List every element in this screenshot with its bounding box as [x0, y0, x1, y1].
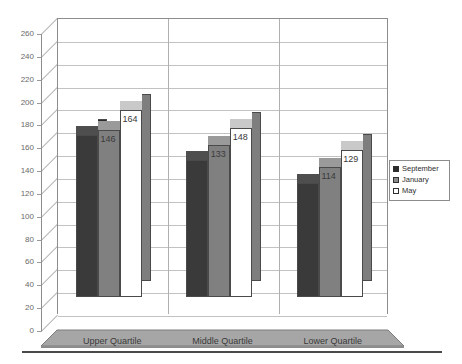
- bar-top-face: [230, 119, 252, 128]
- y-axis-tick-label: 260: [8, 30, 34, 38]
- y-axis-tick-label: 80: [8, 236, 34, 244]
- y-axis-depth-connector: [41, 292, 58, 309]
- bar-front-face: [297, 183, 319, 297]
- legend-item-label: January: [402, 176, 429, 184]
- legend-item-label: May: [402, 187, 416, 195]
- y-axis-tick-label: 120: [8, 190, 34, 198]
- bar-top-face: [120, 101, 142, 110]
- y-axis-depth-connector: [41, 269, 58, 286]
- y-axis-tick-label: 0: [8, 327, 34, 335]
- plot-area: [57, 18, 388, 314]
- bar-front-face: [98, 130, 120, 297]
- bar-september-upper[interactable]: [76, 135, 98, 297]
- y-axis-depth-connector: [41, 87, 58, 104]
- legend-item-label: September: [402, 165, 439, 173]
- bar-september-lower[interactable]: [297, 183, 319, 297]
- legend-item-september[interactable]: September: [393, 164, 446, 174]
- y-axis-depth-connector: [41, 41, 58, 58]
- bar-chart-figure: 020406080100120140160180200220240260 142…: [0, 0, 462, 364]
- y-axis-depth-connector: [41, 155, 58, 172]
- y-axis-tick-label: 220: [8, 76, 34, 84]
- y-axis-depth-connector: [41, 224, 58, 241]
- category-divider: [168, 19, 169, 314]
- bar-value-label: 114: [312, 172, 346, 181]
- bar-front-face: [76, 135, 98, 297]
- category-label: Upper Quartile: [57, 336, 167, 346]
- y-axis-tick-label: 100: [8, 213, 34, 221]
- bar-value-label: 120: [179, 165, 213, 174]
- gridline: [58, 65, 387, 66]
- bar-front-face: [319, 167, 341, 297]
- bar-value-label: 164: [113, 115, 147, 124]
- y-axis-tick-label: 20: [8, 304, 34, 312]
- bar-value-label: 133: [201, 150, 235, 159]
- gridline: [58, 110, 387, 111]
- bar-september-middle[interactable]: [186, 160, 208, 297]
- category-label: Lower Quartile: [278, 336, 388, 346]
- y-axis-tick-label: 240: [8, 53, 34, 61]
- bar-value-label: 146: [91, 135, 125, 144]
- y-axis-depth-connector: [41, 18, 58, 35]
- y-axis-depth-connector: [41, 246, 58, 263]
- white-square-swatch: [393, 188, 399, 194]
- legend-item-may[interactable]: May: [393, 186, 446, 196]
- bar-value-label: 148: [223, 133, 257, 142]
- bar-value-label: 129: [334, 155, 368, 164]
- y-axis-depth-connector: [41, 64, 58, 81]
- category-label: Middle Quartile: [168, 336, 278, 346]
- y-axis-depth-connector: [41, 178, 58, 195]
- y-axis-tick-label: 180: [8, 121, 34, 129]
- y-axis-depth-connector: [41, 132, 58, 149]
- y-axis-line: [41, 34, 42, 331]
- bar-front-face: [186, 160, 208, 297]
- y-axis-tick-label: 140: [8, 167, 34, 175]
- gridline: [58, 42, 387, 43]
- y-axis-tick-label: 160: [8, 144, 34, 152]
- category-divider: [279, 19, 280, 314]
- legend-item-january[interactable]: January: [393, 175, 446, 185]
- bar-value-label: 100: [290, 188, 324, 197]
- y-axis-tick-label: 200: [8, 99, 34, 107]
- bar-january-lower[interactable]: [319, 167, 341, 297]
- bar-top-face: [341, 141, 363, 150]
- footer-rule: [22, 351, 442, 353]
- chart-legend[interactable]: SeptemberJanuaryMay: [389, 160, 450, 201]
- gridline: [58, 88, 387, 89]
- y-axis-tick-label: 40: [8, 281, 34, 289]
- bar-january-upper[interactable]: [98, 130, 120, 297]
- y-axis-depth-connector: [41, 201, 58, 218]
- gridline: [58, 316, 387, 317]
- y-axis-tick-label: 60: [8, 258, 34, 266]
- y-axis-depth-connector: [41, 109, 58, 126]
- black-square-swatch: [393, 166, 399, 172]
- gray-square-swatch: [393, 177, 399, 183]
- bar-top-face: [76, 126, 98, 135]
